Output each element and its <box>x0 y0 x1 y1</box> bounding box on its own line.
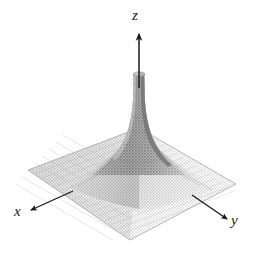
y-axis-line <box>192 195 227 219</box>
surface-plot-figure: z x y <box>0 0 261 254</box>
z-axis-label: z <box>132 8 138 23</box>
y-axis-label: y <box>231 213 238 228</box>
x-axis-line <box>31 191 73 210</box>
surface-plot-canvas <box>0 0 261 254</box>
x-axis-label: x <box>14 204 21 219</box>
